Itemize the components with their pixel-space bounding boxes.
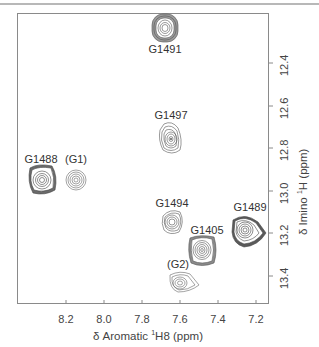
peak-label-g1491: G1491 [148, 43, 181, 55]
y-tick-label: 12.6 [278, 98, 290, 119]
y-axis-title-sup: 1 [296, 190, 303, 194]
peak-g1494 [162, 211, 182, 234]
x-tick-label: 7.2 [248, 313, 263, 325]
y-tick-label: 13.4 [278, 268, 290, 289]
x-ticks [66, 300, 256, 304]
peak-label-g1: (G1) [65, 153, 87, 165]
peak-g1488 [29, 165, 56, 194]
x-axis-title-prefix: δ Aromatic [93, 330, 151, 342]
x-tick-label: 7.8 [134, 313, 149, 325]
peak-label-g1488: G1488 [24, 153, 57, 165]
peak-g1405 [189, 236, 216, 266]
y-tick-label: 12.4 [278, 55, 290, 76]
y-tick-label: 12.8 [278, 140, 290, 161]
y-axis-title: δ Imino 1H (ppm) [296, 149, 309, 235]
peak-label-g1497: G1497 [154, 109, 187, 121]
peak-label-g1489: G1489 [233, 201, 266, 213]
y-tick-label: 13.2 [278, 225, 290, 246]
x-tick-label: 7.6 [172, 313, 187, 325]
x-tick-label: 7.4 [210, 313, 225, 325]
y-tick-label: 13.0 [278, 183, 290, 204]
x-tick-label: 8.2 [58, 313, 73, 325]
peak-g1497 [159, 123, 181, 153]
y-ticks [269, 63, 273, 276]
peak-g1491 [152, 14, 178, 42]
x-axis-title-suffix: H8 (ppm) [155, 330, 203, 342]
x-tick-label: 8.0 [96, 313, 111, 325]
y-axis-title-prefix: δ Imino [297, 194, 309, 235]
y-axis-title-suffix: H (ppm) [297, 149, 309, 191]
peak-label-g1494: G1494 [155, 197, 188, 209]
peak-g1 [66, 170, 86, 190]
x-axis-title: δ Aromatic 1H8 (ppm) [93, 329, 203, 342]
peak-g1489 [232, 216, 266, 247]
peak-g2 [170, 272, 199, 292]
peak-label-g2: (G2) [167, 258, 189, 270]
peak-label-g1405: G1405 [190, 224, 223, 236]
